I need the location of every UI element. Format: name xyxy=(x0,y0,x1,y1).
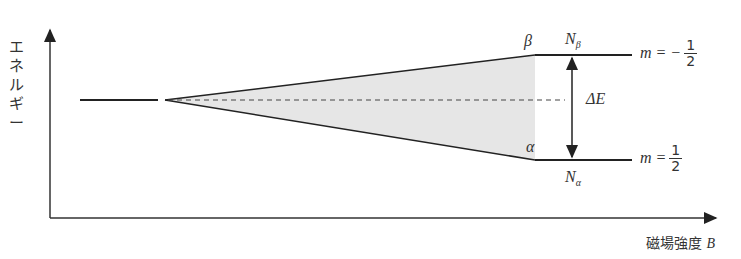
m-minus-half-label: m = −12 xyxy=(640,38,697,69)
alpha-label: α xyxy=(526,138,534,156)
n-alpha-label: Nα xyxy=(565,168,581,188)
delta-e-label: ΔE xyxy=(586,90,605,108)
x-axis-label: 磁場強度 B xyxy=(646,232,715,252)
n-beta-label: Nβ xyxy=(565,30,581,50)
splitting-region xyxy=(165,55,535,160)
beta-label: β xyxy=(524,32,532,50)
zeeman-diagram xyxy=(0,0,741,259)
m-plus-half-label: m =12 xyxy=(640,143,682,174)
y-axis-label: エネルギー xyxy=(6,38,26,133)
